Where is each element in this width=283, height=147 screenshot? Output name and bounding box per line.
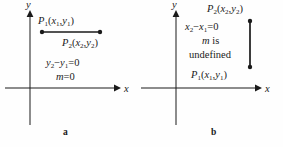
segment-endpoint-bottom <box>248 65 252 69</box>
point-p1-label: P1(x1,y1) <box>191 70 227 82</box>
point-p2-label: P2(x2,y2) <box>62 38 98 50</box>
x-axis-label: x <box>265 84 270 95</box>
delta-y-equation: y2−y1=0 <box>46 58 79 70</box>
slope-value: 0 <box>70 71 75 82</box>
segment-endpoint-top <box>248 19 252 23</box>
slope-equation: m=0 <box>56 72 75 83</box>
panel-a: x y P1(x1,y1) P2(x2,y2) y2−y1=0 m=0 a <box>0 0 141 147</box>
point-p2-label: P2(x2,y2) <box>207 4 243 16</box>
point-p1-label: P1(x1,y1) <box>38 16 74 28</box>
y-axis-arrowhead <box>173 10 180 17</box>
x-axis-arrowhead <box>114 85 121 92</box>
eq-value: 0 <box>213 21 218 32</box>
slope-symbol: m <box>56 71 64 82</box>
p1-close-paren: ) <box>223 69 227 80</box>
p1-close-paren: ) <box>70 15 74 26</box>
segment-endpoint-left <box>40 30 44 34</box>
panel-b-caption: b <box>211 128 216 138</box>
segment-endpoint-right <box>98 30 102 34</box>
x-axis-label: x <box>124 84 129 95</box>
slope-figure: x y P1(x1,y1) P2(x2,y2) y2−y1=0 m=0 a <box>0 0 283 147</box>
p2-close-paren: ) <box>94 37 98 48</box>
slope-symbol: m <box>202 35 210 46</box>
delta-x-equation: x2−x1=0 <box>185 22 218 34</box>
slope-undefined-word: undefined <box>189 50 231 61</box>
eq-value: 0 <box>74 57 79 68</box>
slope-is-word: is <box>212 35 219 46</box>
p2-close-paren: ) <box>239 3 243 14</box>
slope-is-line: m is <box>202 36 219 47</box>
y-axis-label: y <box>26 0 31 11</box>
panel-b: x y P2(x2,y2) x2−x1=0 m is undefined P1(… <box>141 0 282 147</box>
y-axis-arrowhead <box>27 10 34 17</box>
x-axis-arrowhead <box>255 85 262 92</box>
y-axis-label: y <box>172 0 177 11</box>
panel-a-caption: a <box>63 128 68 138</box>
